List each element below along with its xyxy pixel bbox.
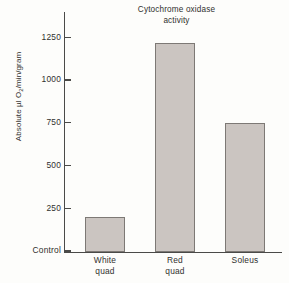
bar-soleus: [225, 123, 265, 251]
x-tick-label-soleus: Soleus: [205, 255, 285, 266]
x-tick-label-red-quad-line-2: quad: [135, 266, 215, 277]
chart-figure: Cytochrome oxidase activity Absolute µl …: [0, 0, 289, 283]
y-axis-line: [64, 12, 65, 253]
y-tick-label-500: 500: [1, 160, 61, 170]
x-tick-label-red-quad-line-1: Red: [135, 255, 215, 266]
y-tick-label-750: 750: [1, 117, 61, 127]
y-tick-label-control: Control: [1, 245, 61, 255]
y-tick-250: 250: [64, 208, 71, 209]
y-axis-title: Absolute µl O2/min/gram: [14, 27, 23, 167]
y-tick-label-1250: 1250: [1, 32, 61, 42]
x-tick-label-white-quad: White quad: [65, 255, 145, 276]
y-tick-1000: 1000: [64, 79, 71, 80]
x-tick-label-white-quad-line-2: quad: [65, 266, 145, 277]
y-tick-500: 500: [64, 165, 71, 166]
y-tick-label-1000: 1000: [1, 74, 61, 84]
y-tick-750: 750: [64, 122, 71, 123]
x-tick-label-red-quad: Red quad: [135, 255, 215, 276]
y-tick-label-250: 250: [1, 203, 61, 213]
y-tick-control: Control: [64, 250, 71, 251]
bar-red-quad: [155, 43, 195, 252]
bar-white-quad: [85, 217, 125, 252]
x-tick-label-soleus-line-1: Soleus: [205, 255, 285, 266]
y-axis-title-subscript: 2: [17, 88, 23, 91]
plot-area: Control 250 500 750 1000 1250 White quad…: [64, 12, 282, 253]
y-tick-1250: 1250: [64, 37, 71, 38]
x-axis-line: [64, 252, 282, 253]
x-tick-label-white-quad-line-1: White: [65, 255, 145, 266]
